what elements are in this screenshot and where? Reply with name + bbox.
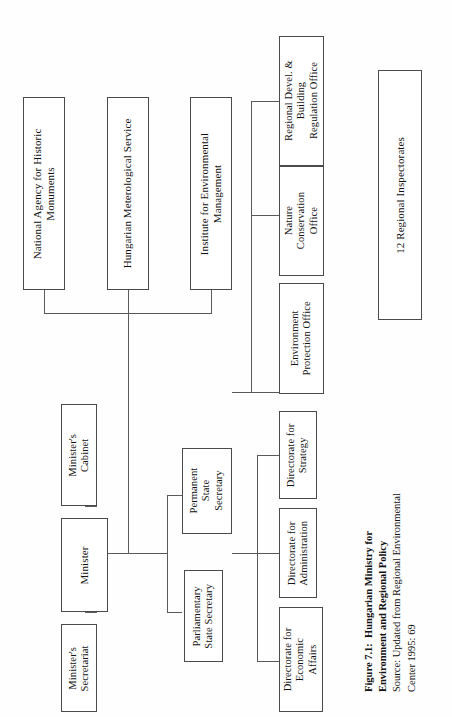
node-label: Minister's Secretariat [67, 645, 92, 691]
caption-source-line-1: Source: Updated from Regional Environmen… [390, 392, 404, 692]
node-national-agency-historic-monuments[interactable]: National Agency for Historic Monuments [23, 97, 65, 290]
node-label: Minister's Cabinet [67, 434, 92, 477]
figure-page: National Agency for Historic Monuments H… [0, 0, 452, 717]
node-label: Nature Conservation Office [283, 192, 320, 249]
connector-to-directorate-strategy [257, 455, 279, 456]
node-label: National Agency for Historic Monuments [31, 128, 57, 259]
connector-minister-cabinet [85, 506, 97, 507]
connector-to-nature-conservation [251, 215, 279, 216]
connector-secretaries-bus [167, 495, 168, 612]
connector-minister-to-secretaries [108, 553, 168, 554]
node-directorate-for-strategy[interactable]: Directorate for Strategy [279, 411, 317, 499]
connector-pss-to-offices [232, 392, 252, 393]
node-regional-devel-building-regulation-office[interactable]: Regional Devel. & Building Regulation Of… [279, 36, 324, 166]
node-directorate-for-economic-affairs[interactable]: Directorate for Economic Affairs [279, 607, 323, 712]
node-label: Institute for Environmental Management [198, 132, 224, 254]
connector-stub-institute [211, 290, 212, 314]
connector-to-directorate-economic [257, 661, 279, 662]
node-permanent-state-secretary[interactable]: Permanent State Secretary [182, 448, 232, 534]
node-label: Directorate for Strategy [286, 423, 311, 487]
node-label: Directorate for Economic Affairs [282, 628, 319, 692]
node-label: Regional Devel. & Building Regulation Of… [283, 61, 320, 142]
caption-source-line-2: Center 1995: 69 [405, 392, 419, 692]
caption-title-line-2: Environment and Regional Policy [376, 392, 390, 692]
connector-to-directorate-administration [257, 553, 279, 554]
connector-minister-secretariat [85, 612, 97, 613]
node-label: Environment Protection Office [289, 301, 314, 375]
node-label: Minister [78, 543, 91, 588]
connector-offices-bus [251, 101, 252, 393]
node-label: Permanent State Secretary [188, 467, 225, 515]
connector-to-parliamentary-state-secretary [167, 612, 182, 613]
connector-stub-meteorological [128, 290, 129, 314]
node-label: Hungarian Meterological Service [122, 119, 135, 269]
figure-caption: Figure 7.1: Hungarian Ministry for Envir… [362, 92, 448, 392]
node-ministers-secretariat[interactable]: Minister's Secretariat [61, 624, 97, 712]
node-hungarian-meterological-service[interactable]: Hungarian Meterological Service [107, 97, 149, 290]
node-minister[interactable]: Minister [61, 518, 108, 612]
node-label: Directorate for Administration [286, 521, 311, 586]
connector-minister-trunk [128, 313, 129, 553]
connector-to-environment-protection [251, 392, 279, 393]
node-parliamentary-state-secretary[interactable]: Parliamentary State Secretary [184, 570, 223, 662]
node-ministers-cabinet[interactable]: Minister's Cabinet [61, 404, 97, 506]
node-directorate-for-administration[interactable]: Directorate for Administration [279, 508, 317, 598]
connector-to-permanent-state-secretary [167, 495, 182, 496]
node-nature-conservation-office[interactable]: Nature Conservation Office [279, 166, 324, 276]
caption-title-line-1: Figure 7.1: Hungarian Ministry for [362, 392, 376, 692]
connector-directorates-bus [257, 455, 258, 662]
connector-stub-national-agency [44, 290, 45, 314]
connector-to-regional-devel [251, 101, 279, 102]
connector-pss-to-directorates [232, 553, 258, 554]
node-environment-protection-office[interactable]: Environment Protection Office [279, 283, 324, 394]
node-label: Parliamentary State Secretary [191, 584, 216, 649]
node-institute-for-environmental-management[interactable]: Institute for Environmental Management [190, 97, 232, 290]
